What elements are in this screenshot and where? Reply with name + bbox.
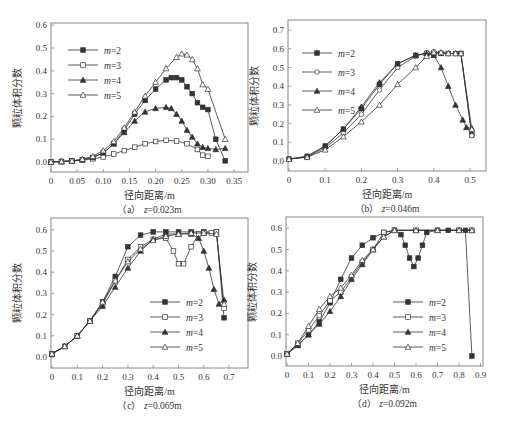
y-tick-label: 0.0 [36,157,48,167]
x-tick-label: 0.5 [464,175,476,185]
x-tick-label: 0 [287,175,292,185]
y-tick-label: 0.6 [271,223,283,233]
x-tick-label: 0.1 [320,175,331,185]
legend-label: m=5 [429,343,446,353]
legend-label: m=5 [186,343,203,353]
marker-square [470,354,475,359]
marker-triangle [464,124,470,129]
figure-canvas: 0.00.10.20.30.40.50.600.050.100.150.200.… [0,0,505,422]
subplot-caption: （b） z=0.046m [355,203,421,214]
legend-label: m=4 [186,328,203,338]
marker-square [111,152,116,157]
y-tick-label: 0.5 [271,245,283,255]
legend-label: m=5 [338,106,355,116]
y-tick-label: 0.1 [36,134,47,144]
x-axis-label: 径向距离/m [362,188,413,200]
y-axis-label: 颗粒体积分数 [11,68,23,128]
marker-square [195,100,200,105]
x-tick-label: 0.30 [200,176,216,186]
marker-circle [315,70,320,75]
y-tick-label: 0.5 [36,246,48,256]
marker-triangle [195,66,201,71]
marker-square [153,139,158,144]
marker-triangle [438,65,444,70]
legend-label: m=4 [338,87,355,97]
marker-square [190,91,195,96]
marker-square [406,300,411,305]
y-tick-label: 0.2 [273,119,284,129]
series-m5 [286,50,475,162]
series-m5 [284,227,475,356]
figure: 0.00.10.20.30.40.50.600.050.100.150.200.… [0,0,505,422]
x-tick-label: 0 [50,372,55,382]
y-tick-label: 0.4 [36,66,48,76]
marker-square [171,249,176,254]
marker-square [371,235,376,240]
y-tick-label: 0.3 [36,288,48,298]
marker-circle [359,112,364,117]
marker-square [200,153,205,158]
marker-square [412,264,417,269]
legend-item: m=4 [68,76,121,86]
marker-triangle [222,136,228,141]
marker-square [195,147,200,152]
marker-square [206,107,211,112]
x-tick-label: 0.2 [356,175,367,185]
legend-label: m=4 [429,328,446,338]
marker-triangle [445,83,451,88]
marker-square [153,87,158,92]
legend-item: m=3 [68,61,121,71]
legend-item: m=5 [150,343,203,353]
x-tick-label: 0.8 [453,370,465,380]
y-axis-label: 颗粒体积分数 [11,263,23,323]
series-line [51,107,225,162]
legend: m=2m=3m=4m=5 [150,298,203,353]
legend-item: m=4 [302,87,355,97]
marker-triangle [327,293,333,298]
x-tick-label: 0.6 [198,372,210,382]
marker-square [174,75,179,80]
y-tick-label: 0.1 [36,331,47,341]
x-tick-label: 0.35 [226,176,242,186]
x-axis-label: 径向距离/m [124,189,175,201]
x-tick-label: 0 [49,176,54,186]
legend-item: m=3 [150,313,203,323]
y-tick-label: 0.4 [36,267,48,277]
marker-triangle [211,286,217,291]
legend-label: m=3 [429,313,446,323]
x-tick-label: 0.25 [174,176,190,186]
marker-square [223,159,228,164]
legend-label: m=5 [104,91,121,101]
x-tick-label: 0.7 [223,372,235,382]
x-tick-label: 0.1 [72,372,83,382]
x-tick-label: 0.3 [392,175,404,185]
legend-item: m=4 [150,328,203,338]
marker-circle [377,88,382,93]
marker-square [164,78,169,83]
x-tick-label: 0.2 [324,370,335,380]
marker-triangle [184,127,190,132]
marker-square [176,261,181,266]
marker-square [122,148,127,153]
x-tick-label: 0.3 [346,370,358,380]
marker-triangle [460,117,466,122]
legend-item: m=4 [393,328,446,338]
x-tick-label: 0.4 [367,370,379,380]
y-tick-label: 0.6 [36,20,48,30]
marker-square [403,243,408,248]
series-m2 [49,75,228,164]
legend: m=2m=3m=4m=5 [68,46,121,101]
x-tick-label: 0.7 [432,370,444,380]
x-tick-label: 0.3 [122,372,134,382]
marker-square [206,154,211,159]
legend: m=2m=3m=4m=5 [393,298,446,353]
marker-circle [470,133,475,138]
legend: m=2m=3m=4m=5 [302,49,355,116]
y-tick-label: 0.2 [36,111,47,121]
marker-square [315,51,320,56]
x-tick-label: 0 [285,370,290,380]
marker-triangle [201,248,207,253]
y-tick-label: 0.6 [273,44,285,54]
y-tick-label: 0.0 [273,156,285,166]
marker-square [163,300,168,305]
